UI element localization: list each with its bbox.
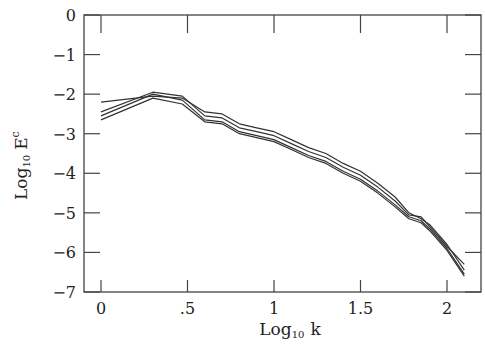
series-curve-3 [101,94,464,274]
y-axis-label: Log10Ec [9,131,32,200]
x-tick-label: 1 [269,299,279,318]
chart: 0.511.52 0−1−2−3−4−5−6−7 Log10k Log10Ec [0,0,485,344]
y-tick-label: 0 [66,6,76,25]
y-axis: 0−1−2−3−4−5−6−7 [52,6,481,302]
y-tick-label: −7 [52,283,76,302]
y-tick-label: −6 [52,243,76,262]
x-tick-label: 0 [96,299,106,318]
y-tick-label: −4 [52,164,76,183]
x-tick-label: 2 [442,299,452,318]
x-tick-label: .5 [180,299,195,318]
y-tick-label: −2 [52,85,76,104]
series-curve-1 [101,96,464,270]
series-curve-2 [101,92,464,264]
series-lines [101,92,464,276]
y-tick-label: −1 [52,46,76,65]
plot-frame [84,15,481,292]
x-tick-label: 1.5 [348,299,373,318]
x-axis: 0.511.52 [96,15,452,318]
x-axis-label: Log10k [259,319,321,340]
y-tick-label: −5 [52,204,76,223]
series-curve-4 [101,98,464,276]
y-tick-label: −3 [52,125,76,144]
